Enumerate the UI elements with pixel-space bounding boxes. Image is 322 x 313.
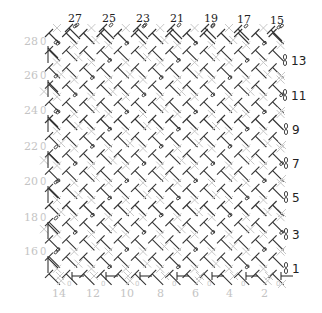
double-crochet-icon xyxy=(62,29,77,44)
single-crochet-icon xyxy=(225,93,233,101)
chain-icon: 0 xyxy=(67,280,71,288)
double-crochet-icon xyxy=(165,63,180,78)
single-crochet-icon xyxy=(87,196,95,204)
row-number-label: 22 xyxy=(24,141,38,152)
double-crochet-icon xyxy=(131,235,146,250)
chain-icon xyxy=(283,95,286,100)
single-crochet-icon xyxy=(191,58,199,66)
row-number-label: 16 xyxy=(24,246,38,257)
single-crochet-icon xyxy=(92,105,100,113)
chain-icon xyxy=(279,161,284,166)
row-number-label: 21 xyxy=(170,13,184,24)
chain-icon xyxy=(210,230,215,235)
chain-icon: 0 xyxy=(40,176,46,187)
double-crochet-icon xyxy=(217,218,232,233)
chain-icon xyxy=(283,54,286,59)
single-crochet-icon xyxy=(90,272,98,280)
single-crochet-icon xyxy=(173,179,181,187)
single-crochet-icon xyxy=(122,58,130,66)
chain-icon xyxy=(262,247,267,252)
chain-icon: 0 xyxy=(40,141,46,152)
chain-icon xyxy=(228,144,233,149)
chain-icon xyxy=(245,127,250,132)
chain-icon: 0 xyxy=(241,280,245,288)
row-number-label: 9 xyxy=(292,125,300,136)
chain-icon xyxy=(210,92,215,97)
chain-icon xyxy=(283,89,286,94)
single-crochet-icon xyxy=(178,88,186,96)
double-crochet-icon xyxy=(251,115,266,130)
double-crochet-icon xyxy=(183,253,198,268)
double-crochet-icon xyxy=(79,81,94,96)
row-number-label: 6 xyxy=(192,288,199,299)
chain-icon xyxy=(284,197,287,202)
row-number-label: 3 xyxy=(292,230,300,241)
single-crochet-icon xyxy=(156,265,164,273)
single-crochet-icon xyxy=(277,144,285,152)
single-crochet-icon xyxy=(74,260,82,268)
base-stitch-icon xyxy=(106,272,118,280)
single-crochet-icon xyxy=(264,139,272,147)
single-crochet-icon xyxy=(259,196,267,204)
single-crochet-icon xyxy=(105,110,113,118)
chain-icon xyxy=(284,228,287,233)
chain-icon xyxy=(279,230,284,235)
single-crochet-icon xyxy=(122,24,130,32)
row-number-label: 25 xyxy=(102,13,116,24)
single-crochet-icon xyxy=(246,88,254,96)
double-crochet-icon xyxy=(62,98,77,113)
chain-icon xyxy=(176,127,181,132)
double-crochet-icon xyxy=(269,46,284,61)
chain-icon xyxy=(245,196,250,201)
crochet-chart: 00000000000000 xyxy=(0,0,322,313)
single-crochet-icon xyxy=(259,58,267,66)
single-crochet-icon xyxy=(225,58,233,66)
chain-icon: 0 xyxy=(207,280,211,288)
double-crochet-icon xyxy=(183,184,198,199)
single-crochet-icon xyxy=(92,36,100,44)
chain-icon: 0 xyxy=(276,280,280,288)
single-crochet-icon xyxy=(156,196,164,204)
single-crochet-icon xyxy=(156,93,164,101)
single-crochet-icon xyxy=(87,93,95,101)
single-crochet-icon xyxy=(208,144,216,152)
base-stitch-icon xyxy=(140,272,152,280)
chain-icon xyxy=(262,178,267,183)
single-crochet-icon xyxy=(53,265,61,273)
single-crochet-icon xyxy=(160,36,168,44)
single-crochet-icon xyxy=(242,248,250,256)
chain-icon xyxy=(73,92,78,97)
row-number-label: 18 xyxy=(24,212,38,223)
single-crochet-icon xyxy=(53,93,61,101)
single-crochet-icon xyxy=(109,156,117,164)
single-crochet-icon xyxy=(122,196,130,204)
row-number-label: 20 xyxy=(24,176,38,187)
row-number-label: 5 xyxy=(292,193,300,204)
double-crochet-icon xyxy=(62,167,77,182)
single-crochet-icon xyxy=(53,162,61,170)
single-crochet-icon xyxy=(74,122,82,130)
single-crochet-icon xyxy=(156,230,164,238)
double-crochet-icon xyxy=(45,253,60,268)
single-crochet-icon xyxy=(105,179,113,187)
chain-icon xyxy=(107,264,112,269)
chain-icon xyxy=(107,127,112,132)
single-crochet-icon xyxy=(70,76,78,84)
chain-icon xyxy=(176,196,181,201)
chain-icon xyxy=(193,178,198,183)
single-crochet-icon xyxy=(74,191,82,199)
single-crochet-icon xyxy=(53,58,61,66)
single-crochet-icon xyxy=(259,265,267,273)
single-crochet-icon xyxy=(74,53,82,61)
single-crochet-icon xyxy=(212,191,220,199)
chain-icon xyxy=(284,123,287,128)
double-crochet-icon xyxy=(97,132,112,147)
single-crochet-icon xyxy=(208,41,216,49)
single-crochet-icon xyxy=(56,272,64,280)
double-crochet-icon xyxy=(131,98,146,113)
single-crochet-icon xyxy=(105,213,113,221)
single-crochet-icon xyxy=(87,127,95,135)
single-crochet-icon xyxy=(208,179,216,187)
single-crochet-icon xyxy=(156,58,164,66)
single-crochet-icon xyxy=(156,24,164,32)
